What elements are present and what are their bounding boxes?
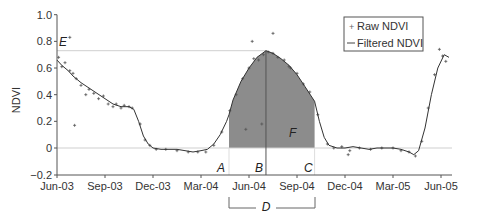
label-c: C: [304, 161, 313, 175]
legend-raw-label: Raw NDVI: [357, 20, 408, 32]
raw-point: [272, 32, 275, 35]
raw-point: [80, 84, 83, 87]
x-tick-label: Jun-05: [424, 180, 458, 192]
y-tick-label: 0: [46, 142, 52, 154]
y-tick-label: 0.6: [37, 62, 52, 74]
legend-filtered-label: Filtered NDVI: [357, 37, 423, 49]
x-tick-label: Jun-03: [40, 180, 74, 192]
raw-point: [64, 61, 67, 64]
y-tick-label: 1.0: [37, 9, 52, 21]
y-axis-title: NDVI: [10, 87, 22, 113]
label-b: B: [255, 161, 263, 175]
label-d: D: [262, 200, 271, 214]
raw-point: [73, 124, 76, 127]
raw-point: [204, 150, 207, 153]
x-tick-label: Sep-03: [87, 180, 122, 192]
raw-point: [112, 105, 115, 108]
raw-point: [107, 103, 110, 106]
season-length-bracket: [229, 197, 315, 208]
x-tick-label: Sep-04: [279, 180, 314, 192]
label-e: E: [59, 35, 68, 49]
raw-point: [84, 93, 87, 96]
x-tick-label: Dec-03: [135, 180, 170, 192]
shaded-area: [229, 51, 315, 148]
raw-point: [438, 48, 441, 51]
raw-point: [68, 36, 71, 39]
x-tick-label: Mar-04: [184, 180, 219, 192]
legend-raw-marker: +: [349, 22, 354, 32]
raw-point: [251, 40, 254, 43]
x-tick-label: Mar-05: [376, 180, 411, 192]
x-tick-label: Jun-04: [232, 180, 266, 192]
raw-point: [444, 60, 447, 63]
y-tick-label: 0.4: [37, 89, 52, 101]
label-f: F: [289, 126, 297, 140]
raw-point: [57, 56, 60, 59]
raw-point: [347, 153, 350, 156]
raw-point: [97, 97, 100, 100]
y-tick-label: 0.2: [37, 115, 52, 127]
raw-point: [348, 149, 351, 152]
x-tick-label: Dec-04: [327, 180, 362, 192]
ndvi-chart: −0.200.20.40.60.81.0Jun-03Sep-03Dec-03Ma…: [0, 0, 482, 223]
raw-point: [414, 154, 417, 157]
label-a: A: [216, 161, 225, 175]
y-tick-label: 0.8: [37, 35, 52, 47]
integrated-ndvi-area: [229, 51, 315, 148]
legend: + Raw NDVI Filtered NDVI: [344, 17, 423, 51]
